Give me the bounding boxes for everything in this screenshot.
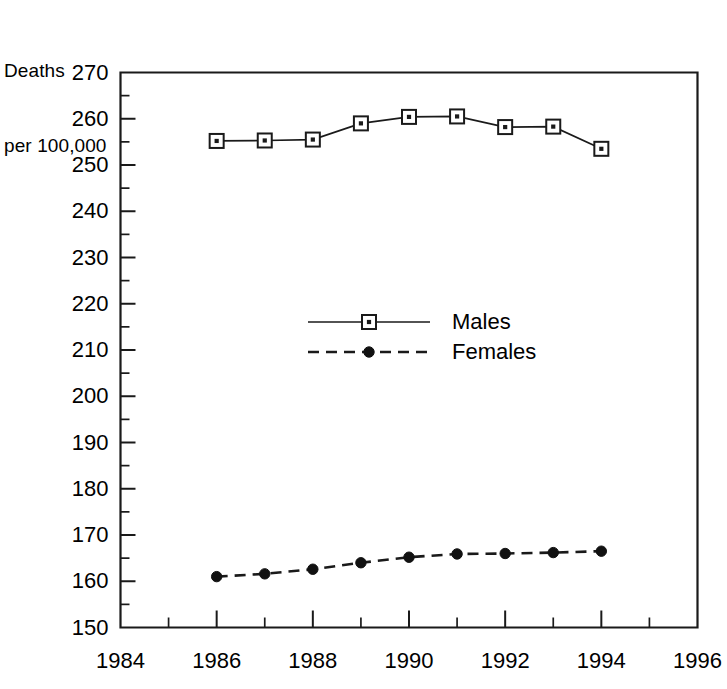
- data-point-females: [548, 547, 558, 557]
- legend-label-females: Females: [452, 341, 536, 363]
- legend-marker-males-dot: [367, 320, 371, 324]
- data-point-females: [500, 548, 510, 558]
- axis-frame: [121, 73, 698, 628]
- data-point-females: [596, 546, 606, 556]
- data-point-males-dot: [407, 115, 411, 119]
- data-point-males-dot: [263, 138, 267, 142]
- data-point-females: [260, 569, 270, 579]
- data-point-females: [356, 558, 366, 568]
- data-point-females: [404, 552, 414, 562]
- legend-marker-females: [364, 347, 374, 357]
- legend-label-males: Males: [452, 311, 511, 333]
- plot-frame: [121, 73, 698, 628]
- x-axis-ticks: [169, 611, 650, 628]
- data-point-males-dot: [551, 125, 555, 129]
- data-point-males-dot: [455, 114, 459, 118]
- legend-glyphs: [308, 315, 430, 357]
- data-point-females: [452, 549, 462, 559]
- data-point-males-dot: [215, 139, 219, 143]
- plot-area: [0, 0, 727, 689]
- data-point-males-dot: [599, 147, 603, 151]
- data-point-males-dot: [311, 137, 315, 141]
- data-series-layer: [210, 109, 609, 581]
- data-point-females: [308, 564, 318, 574]
- chart-container: Deaths per 100,000 270260250240230220210…: [0, 0, 727, 689]
- data-point-males-dot: [359, 121, 363, 125]
- y-axis-ticks: [121, 96, 136, 605]
- data-point-males-dot: [503, 125, 507, 129]
- data-point-females: [211, 571, 221, 581]
